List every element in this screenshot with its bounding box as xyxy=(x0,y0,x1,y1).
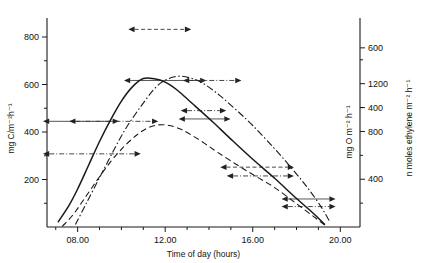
x-axis-title: Time of day (hours) xyxy=(167,249,241,259)
series-ethylene-reduction xyxy=(75,76,329,224)
x-ticklabel: 20.00 xyxy=(329,235,352,245)
x-ticklabel: 12.00 xyxy=(154,235,177,245)
y-ticklabel-left: 400 xyxy=(24,127,39,137)
x-ticklabel: 16.00 xyxy=(241,235,264,245)
y-ticklabel-left: 200 xyxy=(24,175,39,185)
y-ticklabel-left: 600 xyxy=(24,80,39,90)
series-carbon-fixation xyxy=(58,78,325,225)
y-ticklabel-right-outer: 400 xyxy=(368,103,383,113)
chart-container: 20040060080008.0012.0016.0020.00Time of … xyxy=(0,0,430,263)
y-ticklabel-right-outer: 600 xyxy=(368,43,383,53)
y-axis-title-left: mg C/m⁻²h⁻¹ xyxy=(6,103,16,153)
y-axis-title-right-inner: mg O m⁻² h⁻¹ xyxy=(344,105,354,158)
y-ticklabel-left: 800 xyxy=(24,32,39,42)
x-ticklabel: 08.00 xyxy=(66,235,89,245)
annotations-layer xyxy=(49,29,329,206)
y-ticklabel-right-inner: 800 xyxy=(368,127,383,137)
chart-canvas: 20040060080008.0012.0016.0020.00Time of … xyxy=(0,0,430,263)
curves-layer xyxy=(58,76,329,226)
y-ticklabel-right-inner: 1200 xyxy=(368,79,388,89)
y-axis-title-right-outer: n moles ethylene m⁻² h⁻¹ xyxy=(404,80,414,177)
axis-labels-layer: 20040060080008.0012.0016.0020.00Time of … xyxy=(6,32,414,259)
y-ticklabel-right-inner: 400 xyxy=(368,174,383,184)
